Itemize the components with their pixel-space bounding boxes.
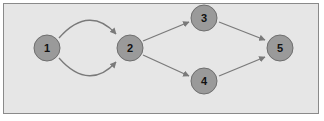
node-1-label: 1 [44, 42, 50, 54]
edge-2-3 [143, 22, 189, 41]
edge-4-5 [219, 57, 265, 76]
edge-1-2-upper [59, 20, 116, 38]
node-4-label: 4 [201, 75, 208, 87]
node-2[interactable]: 2 [117, 35, 143, 61]
node-3-label: 3 [201, 12, 207, 24]
node-2-label: 2 [127, 42, 133, 54]
node-5-label: 5 [277, 42, 283, 54]
node-5[interactable]: 5 [267, 35, 293, 61]
edge-2-4 [143, 55, 189, 76]
node-4[interactable]: 4 [191, 68, 217, 94]
node-1[interactable]: 1 [34, 35, 60, 61]
node-3[interactable]: 3 [191, 5, 217, 31]
directed-graph: 1 2 3 4 5 [0, 0, 324, 121]
edge-3-5 [219, 22, 265, 40]
edge-1-2-lower [59, 58, 116, 76]
